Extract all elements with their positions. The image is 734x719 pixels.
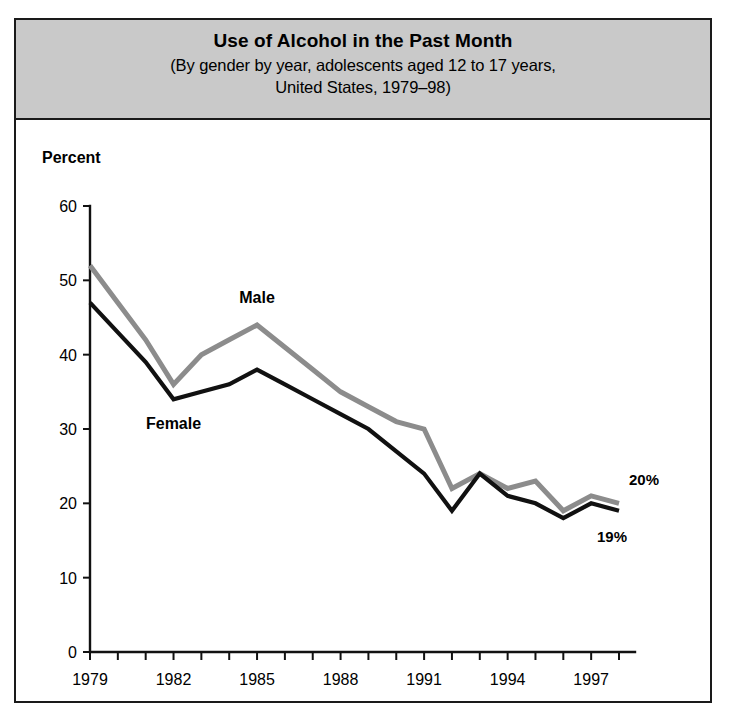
svg-text:1991: 1991 bbox=[406, 671, 442, 688]
series-label-male: Male bbox=[239, 289, 275, 306]
figure-frame: Use of Alcohol in the Past Month (By gen… bbox=[14, 18, 712, 703]
svg-text:1979: 1979 bbox=[72, 671, 108, 688]
svg-text:1988: 1988 bbox=[323, 671, 359, 688]
svg-text:40: 40 bbox=[59, 347, 77, 364]
svg-text:50: 50 bbox=[59, 272, 77, 289]
series-line-male bbox=[90, 265, 619, 510]
y-axis-tick-labels: 0102030405060 bbox=[59, 198, 77, 661]
svg-text:60: 60 bbox=[59, 198, 77, 215]
svg-text:10: 10 bbox=[59, 570, 77, 587]
chart-subtitle-line-1: (By gender by year, adolescents aged 12 … bbox=[16, 55, 710, 77]
chart-header-band: Use of Alcohol in the Past Month (By gen… bbox=[16, 20, 710, 120]
axis-tick-marks bbox=[83, 206, 619, 660]
x-axis-tick-labels: 1979198219851988199119941997 bbox=[72, 671, 609, 688]
svg-text:1985: 1985 bbox=[239, 671, 275, 688]
svg-text:0: 0 bbox=[68, 644, 77, 661]
chart-subtitle-line-2: United States, 1979–98) bbox=[16, 77, 710, 99]
svg-text:20: 20 bbox=[59, 495, 77, 512]
plot-region: Percent 0102030405060 197919821985198819… bbox=[16, 120, 710, 701]
svg-text:1997: 1997 bbox=[573, 671, 609, 688]
data-series-group bbox=[90, 265, 619, 518]
endpoint-label-female: 19% bbox=[597, 528, 627, 545]
svg-text:1994: 1994 bbox=[490, 671, 526, 688]
chart-title: Use of Alcohol in the Past Month bbox=[16, 29, 710, 53]
endpoint-label-male: 20% bbox=[629, 471, 659, 488]
svg-text:1982: 1982 bbox=[156, 671, 192, 688]
chart-plot-svg: 0102030405060 19791982198519881991199419… bbox=[16, 120, 710, 701]
svg-text:30: 30 bbox=[59, 421, 77, 438]
series-label-female: Female bbox=[146, 415, 201, 432]
